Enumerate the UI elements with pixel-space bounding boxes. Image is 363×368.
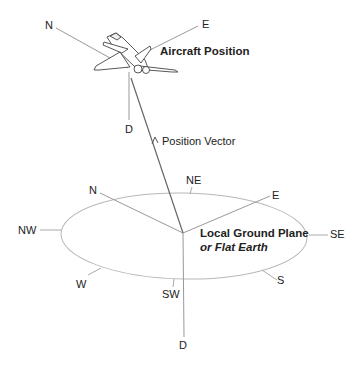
- compass-w-label: W: [76, 279, 86, 290]
- compass-s-label: S: [277, 275, 284, 286]
- position-vector-arrowhead: [152, 137, 158, 144]
- compass-sw-label: SW: [162, 289, 180, 300]
- aircraft-down-label: D: [125, 124, 133, 135]
- ground-down-label: D: [179, 340, 187, 351]
- ground-plane-sublabel: or Flat Earth: [200, 242, 268, 254]
- ground-east-label: E: [272, 190, 279, 201]
- ground-north-axis: [100, 193, 183, 233]
- tick-w: [88, 268, 101, 275]
- position-vector: [131, 78, 183, 233]
- compass-se-label: SE: [330, 229, 345, 240]
- diagram-canvas: N E Aircraft Position D Position Vector …: [0, 0, 363, 368]
- tick-sw: [173, 279, 174, 287]
- ground-north-label: N: [89, 185, 97, 196]
- aircraft-position-label: Aircraft Position: [160, 46, 249, 58]
- compass-ne-label: NE: [186, 175, 201, 186]
- ground-down-axis: [183, 233, 184, 337]
- aircraft-east-label: E: [202, 19, 209, 30]
- position-vector-label: Position Vector: [162, 136, 235, 147]
- aircraft-north-label: N: [45, 20, 53, 31]
- tick-s: [262, 270, 277, 280]
- ground-plane-label: Local Ground Plane: [200, 228, 309, 240]
- compass-nw-label: NW: [18, 225, 36, 236]
